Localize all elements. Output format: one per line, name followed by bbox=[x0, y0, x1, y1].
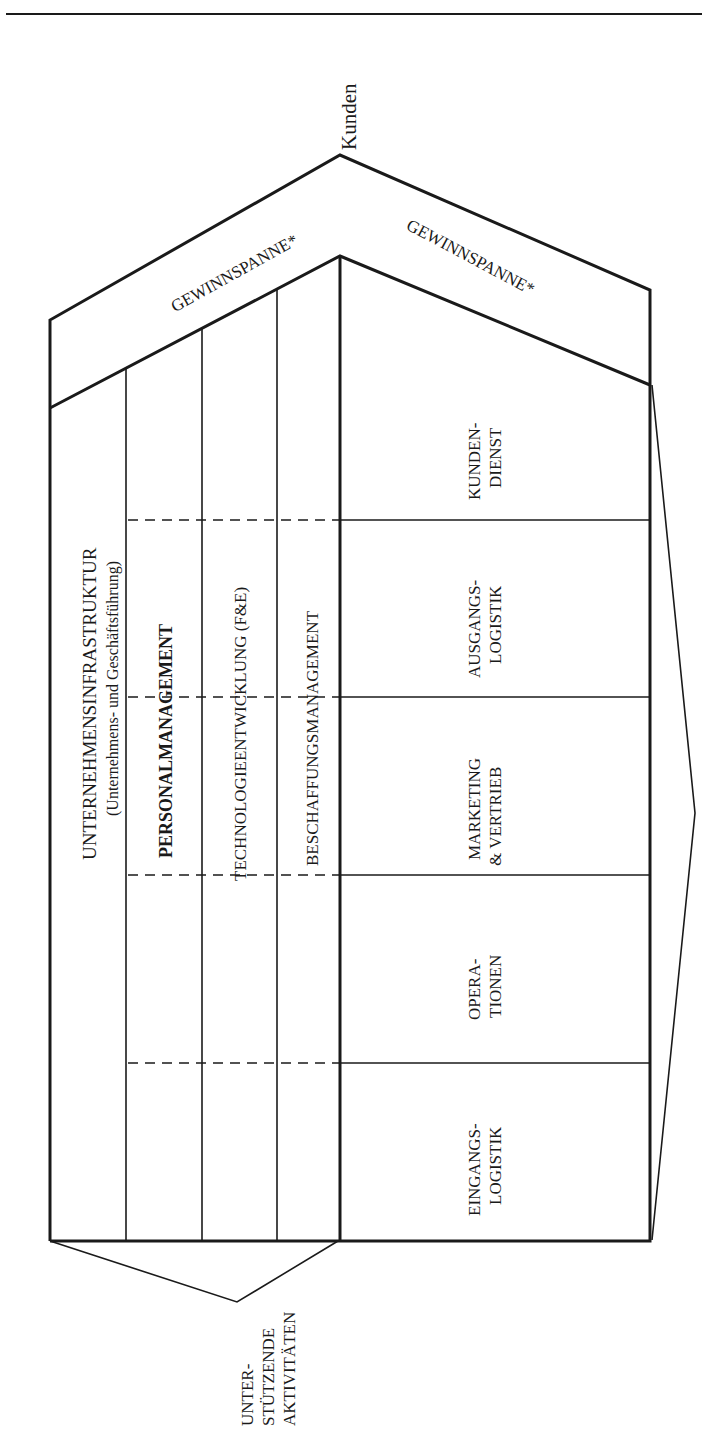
primary-outbound-line2: LOGISTIK bbox=[486, 585, 505, 664]
support-hr-label: PERSONALMANAGEMENT bbox=[156, 624, 176, 858]
support-infrastructure-sublabel: (Unternehmens- und Geschäftsführung) bbox=[104, 561, 122, 816]
primary-inbound-line2: LOGISTIK bbox=[486, 1126, 505, 1205]
support-procurement-label: BESCHAFFUNGSMANAGEMENT bbox=[303, 610, 322, 866]
support-bracket-line2: STÜTZENDE bbox=[259, 1328, 278, 1426]
margin-boundary bbox=[50, 256, 650, 408]
margin-label-right: GEWINNSPANNE* bbox=[403, 215, 537, 298]
primary-bracket bbox=[652, 385, 695, 1240]
support-bracket-line1: UNTER- bbox=[238, 1363, 257, 1426]
primary-marketing-line2: & VERTRIEB bbox=[486, 767, 505, 866]
primary-operations-line1: OPERA- bbox=[465, 958, 484, 1020]
primary-service-line2: DIENST bbox=[486, 427, 505, 488]
support-bracket-line3: AKTIVITÄTEN bbox=[280, 1312, 299, 1426]
primary-service-line1: KUNDEN- bbox=[465, 422, 484, 500]
primary-outbound-line1: AUSGANGS- bbox=[465, 579, 484, 678]
primary-operations-line2: TIONEN bbox=[486, 955, 505, 1018]
support-technology-label: TECHNOLOGIEENTWICKLUNG (F&E) bbox=[231, 587, 250, 881]
primary-inbound-line1: EINGANGS- bbox=[465, 1123, 484, 1216]
outer-arrow-outline bbox=[50, 155, 650, 1241]
primary-marketing-line1: MARKETING bbox=[465, 758, 484, 860]
support-bracket bbox=[50, 1241, 338, 1302]
value-chain-diagram: Kunden GEWINNSPANNE* GEWINNSPANNE* UNTER… bbox=[0, 0, 702, 1442]
support-infrastructure-label: UNTERNEHMENSINFRASTRUKTUR bbox=[79, 547, 100, 860]
customers-label: Kunden bbox=[337, 83, 361, 150]
